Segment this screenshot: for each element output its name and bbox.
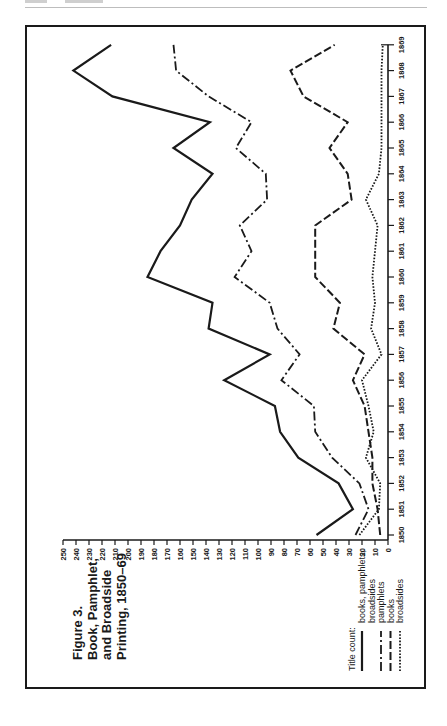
figure-title-line: Printing, 1850–69 <box>114 553 129 660</box>
value-tick-label: 250 <box>59 548 68 561</box>
legend-label: pamphlets <box>376 581 386 623</box>
value-tick-label: 120 <box>228 548 237 561</box>
value-tick-label: 160 <box>176 548 185 561</box>
value-tick-label: 30 <box>345 548 354 556</box>
value-tick-label: 140 <box>202 548 211 561</box>
value-tick-label: 10 <box>371 548 380 556</box>
year-tick-label: 1853 <box>397 449 406 466</box>
year-axis: 1850185118521853185418551856185718581859… <box>381 36 406 543</box>
chart: 0102030405060708090100110120130140150160… <box>0 0 447 726</box>
legend: Title count:books, pamphlets,broadsidesp… <box>347 550 405 671</box>
value-tick-label: 80 <box>280 548 289 556</box>
year-tick-label: 1858 <box>397 320 406 337</box>
value-tick-label: 150 <box>189 548 198 561</box>
series-line-broadsides <box>359 45 382 535</box>
figure-title: Figure 3.Book, Pamphlet,and BroadsidePri… <box>70 553 129 660</box>
year-tick-label: 1851 <box>397 501 406 518</box>
value-axis: 0102030405060708090100110120130140150160… <box>59 540 393 561</box>
value-tick-label: 130 <box>215 548 224 561</box>
figure-title-line: Book, Pamphlet, <box>85 558 100 660</box>
value-tick-label: 240 <box>72 548 81 561</box>
year-tick-label: 1865 <box>397 140 406 157</box>
value-tick-label: 100 <box>254 548 263 561</box>
legend-label: broadsides <box>367 578 377 623</box>
year-tick-label: 1861 <box>397 243 406 260</box>
value-tick-label: 90 <box>267 548 276 556</box>
legend-label: books <box>386 598 396 623</box>
year-tick-label: 1857 <box>397 346 406 363</box>
year-tick-label: 1859 <box>397 294 406 311</box>
year-tick-label: 1869 <box>397 36 406 53</box>
value-tick-label: 180 <box>150 548 159 561</box>
year-tick-label: 1860 <box>397 269 406 286</box>
year-tick-label: 1863 <box>397 191 406 208</box>
figure-title-line: and Broadside <box>99 570 114 660</box>
year-tick-label: 1864 <box>397 165 406 183</box>
year-tick-label: 1862 <box>397 217 406 234</box>
figure-title-line: Figure 3. <box>70 606 85 660</box>
year-tick-label: 1867 <box>397 88 406 105</box>
value-tick-label: 60 <box>306 548 315 556</box>
value-tick-label: 40 <box>332 548 341 556</box>
value-tick-label: 0 <box>384 548 393 552</box>
value-tick-label: 110 <box>241 548 250 560</box>
year-tick-label: 1868 <box>397 62 406 79</box>
series-line-books-pamphlets-broadsides <box>73 45 353 535</box>
legend-label: books, pamphlets, <box>357 550 367 623</box>
value-tick-label: 50 <box>319 548 328 556</box>
value-tick-label: 170 <box>163 548 172 561</box>
year-tick-label: 1866 <box>397 114 406 131</box>
year-tick-label: 1852 <box>397 475 406 492</box>
value-tick-label: 70 <box>293 548 302 556</box>
year-tick-label: 1854 <box>397 423 406 441</box>
year-tick-label: 1850 <box>397 527 406 544</box>
year-tick-label: 1856 <box>397 372 406 389</box>
value-tick-label: 190 <box>137 548 146 561</box>
year-tick-label: 1855 <box>397 398 406 415</box>
legend-label: broadsides <box>395 578 405 623</box>
legend-title: Title count: <box>347 627 357 671</box>
